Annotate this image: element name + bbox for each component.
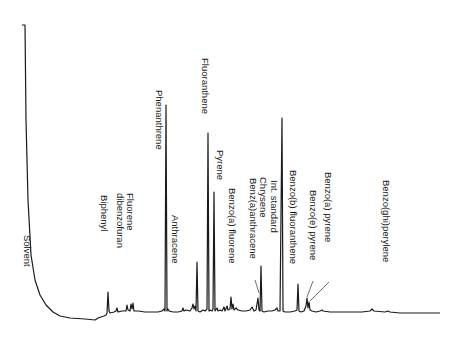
label-pyrene: Pyrene xyxy=(215,150,226,180)
label-benzo-ghi-perylene: Benzo(ghi)perylene xyxy=(381,180,392,262)
chromatogram: Solvent Biphenyl Fluorene dibenzofuran A… xyxy=(0,0,468,340)
label-chrysene: Chrysene xyxy=(258,177,269,218)
label-benzo-b-fluoranthene: Benzo(b) fluoranthene xyxy=(288,170,299,264)
label-dibenzofuran: dibenzofuran xyxy=(115,193,126,248)
label-benzo-a-fluorene: Benzo(a) fluorene xyxy=(227,188,238,264)
label-anthracene: Anthracene xyxy=(170,215,181,264)
label-fluoranthene: Fluoranthene xyxy=(200,58,211,114)
chromatogram-trace xyxy=(22,25,440,320)
label-benzo-e-pyrene: Benzo(e) pyrene xyxy=(308,190,319,260)
label-phenanthrene: Phenanthrene xyxy=(154,90,165,150)
leader-benz-a-anthracene xyxy=(255,280,259,293)
label-biphenyl: Biphenyl xyxy=(99,195,110,231)
label-int-standard: Int. standard xyxy=(269,180,280,233)
label-solvent: Solvent xyxy=(22,235,33,267)
label-benz-a-anthracene: Benz(a)anthracene xyxy=(248,178,259,259)
leader-benzo-e-pyrene xyxy=(307,281,313,297)
label-benzo-a-pyrene: Benzo(a) pyrene xyxy=(323,172,334,242)
leader-benzo-a-pyrene xyxy=(310,282,329,301)
